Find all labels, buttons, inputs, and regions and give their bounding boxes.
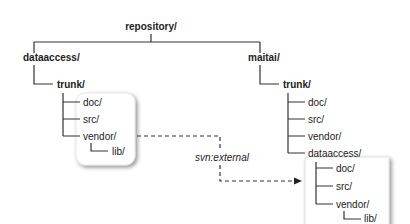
left-trunk-connector	[34, 65, 53, 84]
root-label: repository/	[125, 21, 177, 32]
left-child-doc: doc/	[83, 97, 102, 108]
right-children-connector	[288, 93, 305, 153]
right-trunk-label: trunk/	[283, 79, 311, 90]
right-child-vendor: vendor/	[308, 131, 342, 142]
external-child-vendor: vendor/	[336, 199, 370, 210]
right-child-dataaccess: dataaccess/	[308, 148, 362, 159]
right-trunk-connector	[260, 65, 279, 84]
repository-tree-diagram: repository/ dataaccess/ trunk/ doc/ src/…	[0, 0, 410, 224]
external-child-lib: lib/	[364, 213, 377, 224]
right-child-src: src/	[308, 114, 324, 125]
external-child-src: src/	[336, 181, 352, 192]
right-child-doc: doc/	[308, 97, 327, 108]
root-connector	[34, 34, 260, 53]
external-child-doc: doc/	[336, 163, 355, 174]
arrowhead-icon	[294, 178, 302, 185]
left-trunk-label: trunk/	[57, 79, 85, 90]
svn-external-label: svn:external	[195, 152, 250, 163]
right-project-label: maitai/	[248, 52, 280, 63]
left-project-label: dataaccess/	[23, 52, 80, 63]
left-child-vendor: vendor/	[83, 131, 117, 142]
left-child-src: src/	[83, 114, 99, 125]
left-child-lib: lib/	[112, 146, 125, 157]
